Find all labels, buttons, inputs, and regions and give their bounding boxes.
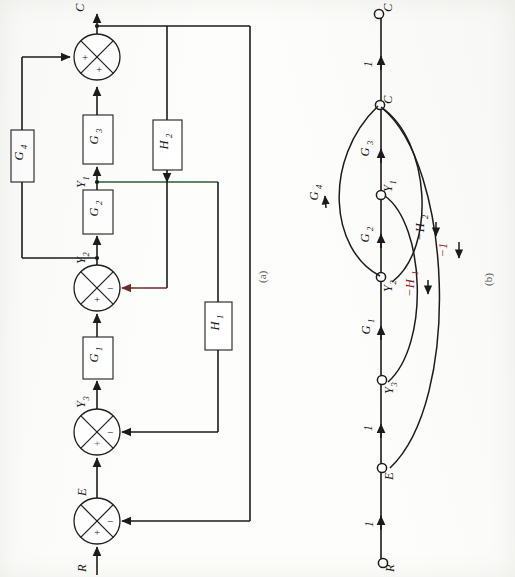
block-G2: G 2 <box>83 190 113 234</box>
label-E-a: E <box>75 488 89 497</box>
block-G4-label: G <box>12 151 26 160</box>
svg-text:R: R <box>383 564 397 573</box>
summer-Y3-sign-minus: − <box>107 426 113 438</box>
svg-text:3: 3 <box>389 382 399 387</box>
node-E <box>377 463 386 472</box>
svg-text:E: E <box>75 488 89 497</box>
label-Y3-a: Y 3 <box>74 396 91 408</box>
svg-text:2: 2 <box>365 226 375 231</box>
flowlabel-edge-1-bottom: 1 <box>362 521 376 527</box>
svg-text:G: G <box>359 325 373 334</box>
node-Y2 <box>376 272 385 281</box>
feedback-H1-path: H 1 <box>122 182 232 432</box>
summing-junction-Y3: + − <box>74 409 120 455</box>
summer-C-sign-plus-left: + <box>82 51 88 63</box>
svg-text:1: 1 <box>361 61 375 67</box>
feedback-H2-path <box>122 170 167 288</box>
block-H1-label: H <box>208 321 222 332</box>
svg-text:3: 3 <box>81 396 91 401</box>
label-R-a: R <box>75 564 89 573</box>
svg-text:G: G <box>358 147 372 156</box>
svg-text:2: 2 <box>388 280 398 285</box>
flowlabel-edge-G1: G 1 <box>359 319 376 335</box>
flowlabel-C-out: C <box>381 3 395 12</box>
svg-text:2: 2 <box>81 252 91 257</box>
svg-text:3: 3 <box>365 141 375 146</box>
svg-text:−H: −H <box>403 278 417 296</box>
flowlabel-G4: G 4 <box>307 184 324 201</box>
panel-b-caption: (b) <box>482 273 495 286</box>
figure-canvas: + − + − G 1 <box>0 0 515 577</box>
arc-G4 <box>325 106 380 276</box>
label-C-a: C <box>73 3 87 12</box>
block-G3-subscript: 3 <box>94 129 104 134</box>
svg-text:R: R <box>75 564 89 573</box>
block-H1-subscript: 1 <box>215 315 225 319</box>
svg-text:4: 4 <box>314 184 324 189</box>
flowlabel-R: R <box>383 564 397 573</box>
summing-junction-E: + − <box>74 498 120 544</box>
summing-junction-C: + + <box>74 34 120 80</box>
summer-Y2-sign-plus: + <box>94 293 100 305</box>
svg-text:1: 1 <box>388 180 398 184</box>
svg-text:(b): (b) <box>482 273 495 286</box>
svg-text:1: 1 <box>361 425 375 431</box>
svg-text:C: C <box>73 3 87 12</box>
label-Y1-a: Y 1 <box>74 176 91 188</box>
panel-a-caption: (a) <box>256 270 269 283</box>
block-G2-label: G <box>87 207 101 216</box>
svg-text:G: G <box>307 191 321 200</box>
svg-text:1: 1 <box>410 271 420 275</box>
svg-text:−H: −H <box>413 222 427 240</box>
flowlabel-edge-1-top: 1 <box>361 61 375 67</box>
block-H2-label: H <box>157 140 171 151</box>
block-G3-label: G <box>87 135 101 144</box>
summer-E-sign-minus: − <box>107 515 113 527</box>
flowlabel-E: E <box>382 472 396 481</box>
svg-text:2: 2 <box>420 214 430 219</box>
flowlabel-edge-G3: G 3 <box>358 141 375 157</box>
summer-Y2-sign-minus: − <box>107 282 113 294</box>
flowlabel-edge-G2: G 2 <box>358 226 375 243</box>
flowlabel-Y1: Y 1 <box>381 180 398 192</box>
takeoff-bus-C <box>95 24 250 521</box>
svg-text:E: E <box>382 472 396 481</box>
block-G3: G 3 <box>83 115 113 164</box>
flowlabel-neg1: −1 <box>436 243 450 258</box>
svg-text:C: C <box>381 3 395 12</box>
svg-text:(a): (a) <box>256 270 269 283</box>
svg-text:C: C <box>381 95 395 104</box>
block-G1-subscript: 1 <box>94 347 104 351</box>
svg-text:1: 1 <box>362 521 376 527</box>
summer-E-sign-plus: + <box>94 526 100 538</box>
svg-text:G: G <box>358 233 372 242</box>
summer-Y3-sign-plus: + <box>94 437 100 449</box>
figure-root: + − + − G 1 <box>0 0 515 577</box>
flowlabel-edge-1-mid: 1 <box>361 425 375 431</box>
flowlabel-negH2: −H 2 <box>413 214 430 241</box>
summing-junction-Y2: + − <box>74 265 120 311</box>
flowlabel-C: C <box>381 95 395 104</box>
takeoff-bus-Y1 <box>95 180 218 184</box>
summer-C-sign-plus-bottom: + <box>96 63 102 75</box>
block-H2: H 2 <box>153 120 182 170</box>
svg-text:1: 1 <box>81 176 91 180</box>
block-G1-label: G <box>87 353 101 362</box>
svg-text:−1: −1 <box>436 243 450 258</box>
block-G1: G 1 <box>83 337 113 379</box>
svg-text:1: 1 <box>366 319 376 323</box>
node-Y3 <box>377 375 386 384</box>
